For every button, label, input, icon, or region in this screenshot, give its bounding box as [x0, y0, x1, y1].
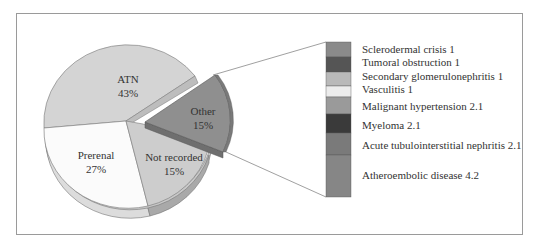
legend-item: Sclerodermal crisis 1: [362, 43, 455, 56]
legend-item: Malignant hypertension 2.1: [362, 100, 483, 113]
connector-line-bottom: [226, 152, 326, 197]
pie-label-prerenal: Prerenal 27%: [66, 148, 126, 176]
pie-label-not-recorded: Not recorded 15%: [137, 150, 211, 178]
legend-item: Acute tubulointerstitial nephritis 2.1: [362, 139, 521, 152]
label-pct: 43%: [100, 86, 156, 100]
label-name: ATN: [100, 72, 156, 86]
legend-item: Tumoral obstruction 1: [362, 56, 460, 69]
label-name: Prerenal: [66, 148, 126, 162]
legend-item: Vasculitis 1: [362, 83, 413, 96]
label-pct: 15%: [178, 118, 228, 132]
label-name: Not recorded: [137, 150, 211, 164]
pie-label-other: Other 15%: [178, 104, 228, 132]
legend-item: Secondary glomerulonephritis 1: [362, 70, 503, 83]
legend-item: Myeloma 2.1: [362, 119, 421, 132]
pie-chart: [0, 0, 534, 245]
stacked-bar: [326, 42, 351, 197]
connector-line-top: [213, 42, 326, 75]
legend-item: Atheroembolic disease 4.2: [362, 169, 479, 182]
label-name: Other: [178, 104, 228, 118]
label-pct: 15%: [137, 164, 211, 178]
pie-label-atn: ATN 43%: [100, 72, 156, 100]
label-pct: 27%: [66, 162, 126, 176]
